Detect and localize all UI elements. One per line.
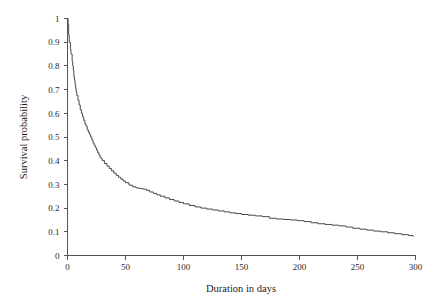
y-tick-label: 0.6: [48, 109, 60, 119]
y-tick-label: 1: [55, 14, 60, 24]
y-tick-label: 0.5: [48, 132, 60, 142]
x-tick-label: 300: [409, 262, 423, 272]
y-axis-title: Survival probability: [18, 94, 29, 179]
x-tick-label: 250: [351, 262, 365, 272]
y-tick-label: 0.9: [48, 37, 60, 47]
x-tick-label: 100: [177, 262, 191, 272]
x-tick-label: 200: [293, 262, 307, 272]
chart-canvas: 00.10.20.30.40.50.60.70.80.91 0501001502…: [0, 0, 439, 301]
y-tick-label: 0.4: [48, 156, 60, 166]
y-tick-label: 0.3: [48, 180, 60, 190]
x-tick-label: 50: [121, 262, 131, 272]
y-tick-label: 0: [55, 251, 60, 261]
survival-curve-figure: 00.10.20.30.40.50.60.70.80.91 0501001502…: [0, 0, 439, 301]
x-axis-title: Duration in days: [206, 283, 276, 294]
x-tick-label: 150: [235, 262, 249, 272]
y-tick-label: 0.7: [48, 85, 60, 95]
y-tick-label: 0.2: [48, 203, 59, 213]
y-tick-label: 0.1: [48, 227, 59, 237]
y-tick-label: 0.8: [48, 61, 60, 71]
x-tick-label: 0: [65, 262, 70, 272]
